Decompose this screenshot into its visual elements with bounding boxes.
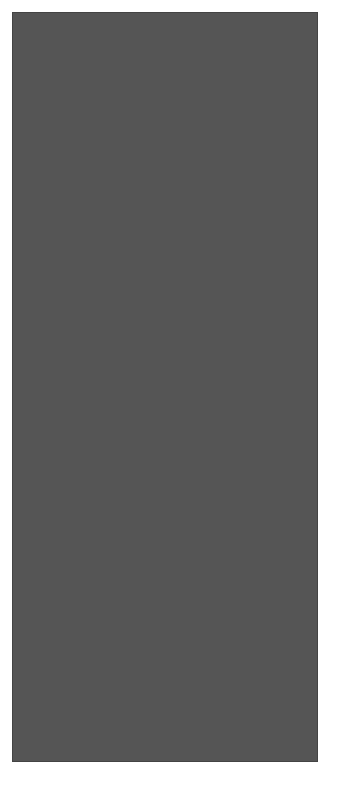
colour-chart-grid: [12, 12, 318, 762]
